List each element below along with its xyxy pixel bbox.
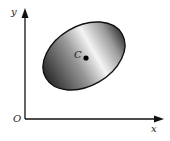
origin-label: O [13,113,21,124]
point-c-label: C [74,49,82,60]
y-axis [22,8,29,119]
point-c-marker [83,55,88,60]
y-axis-label: y [10,6,17,17]
x-axis-label: x [151,123,157,134]
y-axis-arrowhead-icon [22,8,29,18]
x-axis-arrowhead-icon [154,116,164,123]
diagram-canvas: y x O C [0,0,170,141]
ellipse-body [31,8,137,104]
x-axis [25,116,164,123]
